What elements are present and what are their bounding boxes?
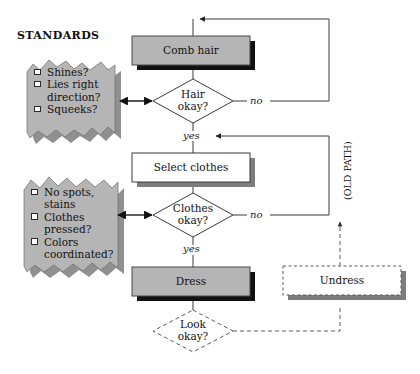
checkbox-icon[interactable]	[31, 238, 38, 245]
note-line-text: Lies right	[47, 78, 98, 90]
note-line-text: Clothes	[44, 211, 84, 223]
note-line-text: Shines?	[47, 66, 88, 78]
old-path-label: (OLD PATH)	[342, 120, 353, 200]
note-item-continuation: direction?	[34, 91, 100, 103]
checkbox-icon[interactable]	[31, 189, 38, 196]
note-line-text: direction?	[47, 91, 100, 103]
note-item: Lies right	[34, 78, 100, 90]
note-line-text: Colors	[44, 236, 78, 248]
hair-standards-note-text: Shines? Lies right direction? Squeeks?	[34, 66, 100, 116]
hair-okay-node[interactable]	[153, 79, 233, 123]
edge-label-hair-yes: yes	[183, 130, 200, 141]
note-line-text: Squeeks?	[47, 103, 98, 115]
checkbox-icon[interactable]	[34, 69, 41, 76]
checkbox-icon[interactable]	[34, 81, 41, 88]
note-line-text: coordinated?	[44, 248, 113, 260]
note-line-text: pressed?	[44, 223, 91, 235]
edge-label-clothes-yes: yes	[183, 243, 200, 254]
clothes-standards-note-text: No spots, stains Clothes pressed? Colors…	[31, 186, 113, 260]
note-item: No spots,	[31, 186, 113, 198]
note-item: Colors	[31, 236, 113, 248]
edge-label-clothes-no: no	[250, 209, 262, 220]
look-okay-node[interactable]	[153, 310, 233, 352]
clothes-okay-node[interactable]	[153, 193, 233, 237]
standards-heading: STANDARDS	[17, 29, 99, 42]
checkbox-icon[interactable]	[31, 213, 38, 220]
note-item-continuation: pressed?	[31, 223, 113, 235]
edge-label-hair-no: no	[250, 95, 262, 106]
note-item: Shines?	[34, 66, 100, 78]
note-item-continuation: coordinated?	[31, 248, 113, 260]
checkbox-icon[interactable]	[34, 106, 41, 113]
note-line-text: stains	[44, 198, 75, 210]
undress-node[interactable]	[283, 266, 406, 300]
edge-look-to-undress	[233, 307, 340, 331]
comb-hair-node[interactable]	[132, 36, 255, 70]
dress-node[interactable]	[132, 267, 255, 301]
select-clothes-node[interactable]	[132, 153, 255, 187]
note-line-text: No spots,	[44, 186, 94, 198]
note-item: Squeeks?	[34, 103, 100, 115]
note-item: Clothes	[31, 211, 113, 223]
note-item-continuation: stains	[31, 198, 113, 210]
flowchart-diagram: STANDARDS Comb hair Hair okay? Select cl…	[0, 0, 420, 374]
